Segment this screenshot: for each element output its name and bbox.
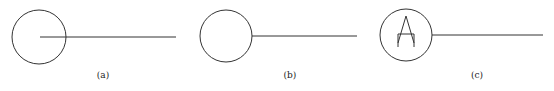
figure-a: (a) (12, 10, 176, 80)
figure-label-c: (c) (471, 70, 483, 80)
figure-label-a: (a) (97, 70, 109, 80)
figure-label-b: (b) (284, 70, 297, 80)
circle-b (200, 10, 252, 62)
figure-c: (c) (380, 9, 543, 80)
diagram-canvas: (a) (b) (c) (0, 0, 554, 91)
letter-a-glyph (398, 16, 414, 47)
figure-b: (b) (200, 10, 357, 80)
